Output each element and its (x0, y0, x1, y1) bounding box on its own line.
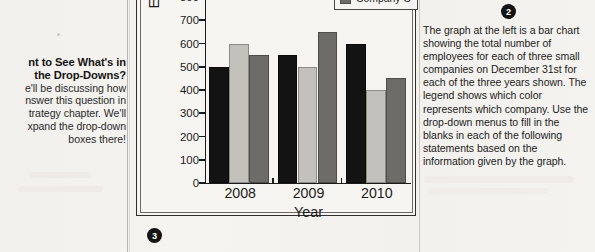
y-axis-tick-label: 800 (159, 0, 199, 3)
bar-company-b-2008 (229, 44, 249, 184)
bar-company-b-2009 (298, 67, 318, 183)
instructions-text: The graph at the left is a bar chart sho… (423, 24, 591, 168)
x-axis-tick-label: 2008 (205, 185, 275, 201)
paper-smudge (18, 186, 103, 192)
legend-item-company-c: Company C (340, 0, 412, 5)
paper-speck (57, 33, 60, 36)
instructions-badge: 2 (501, 4, 516, 19)
y-axis-tick-label: 400 (159, 84, 199, 96)
bar-company-a-2010 (346, 44, 366, 184)
y-axis-tick-label: 0 (159, 177, 199, 189)
sidebar-note-body-line5: boxes there! (0, 133, 126, 146)
chart-badge: 3 (147, 228, 162, 243)
legend-item-label: Company C (356, 0, 411, 4)
bar-company-c-2008 (249, 55, 269, 183)
bar-company-b-2010 (366, 90, 386, 183)
column-divider-right (419, 0, 420, 252)
x-axis-group-separator (341, 178, 342, 183)
column-divider-left-shadow (129, 0, 130, 252)
paper-smudge (30, 172, 90, 178)
chart-legend: Company ACompany BCompany C (334, 0, 418, 10)
y-axis-tick-label: 700 (159, 14, 199, 26)
plot-area (206, 0, 411, 183)
sidebar-note-body-line4: xpand the drop-down (0, 120, 126, 133)
bar-chart: Employees 8007006005004003002001000 Year… (137, 0, 417, 217)
y-axis-tick-label: 300 (159, 107, 199, 119)
legend-swatch-icon (340, 0, 351, 4)
bar-company-a-2009 (278, 55, 298, 183)
sidebar-note-body-line3: trategy chapter. We'll (0, 107, 126, 120)
bar-company-a-2008 (209, 67, 229, 183)
x-axis-tick-label: 2010 (342, 185, 412, 201)
y-axis-tick-label: 100 (159, 154, 199, 166)
x-axis-group-separator (272, 178, 273, 183)
sidebar-note: nt to See What's in the Drop-Downs? e'll… (0, 56, 126, 146)
y-axis-tick-label: 600 (159, 38, 199, 50)
y-axis-tick-labels: 8007006005004003002001000 (155, 0, 199, 217)
sidebar-note-body-line2: nswer this question in (0, 94, 126, 107)
bar-company-c-2010 (386, 78, 406, 183)
x-axis-label: Year (206, 204, 411, 220)
column-divider-left (127, 0, 128, 252)
y-axis-tick-label: 500 (159, 61, 199, 73)
paper-smudge (424, 176, 574, 183)
sidebar-note-heading-line2: the Drop-Downs? (0, 69, 126, 82)
y-axis-tick-label: 200 (159, 131, 199, 143)
x-axis-tick-label: 2009 (274, 185, 344, 201)
bar-company-c-2009 (318, 32, 338, 183)
chart-panel: Employees 8007006005004003002001000 Year… (136, 0, 416, 216)
paper-smudge (428, 188, 548, 194)
sidebar-note-heading-line1: nt to See What's in (0, 56, 126, 69)
sidebar-note-body-line1: e'll be discussing how (0, 82, 126, 95)
